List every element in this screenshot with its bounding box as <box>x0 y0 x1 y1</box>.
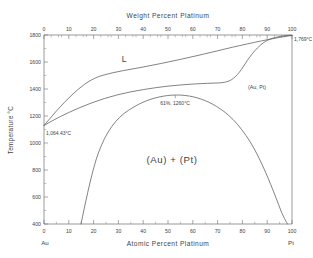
bottom-tick-label: 70 <box>215 228 221 234</box>
pt-melting-point-label: 1,769°C <box>294 36 313 42</box>
bottom-tick-label: 90 <box>264 228 270 234</box>
left-tick-label: 800 <box>32 167 41 173</box>
bottom-tick-label: 60 <box>190 228 196 234</box>
bottom-tick-label: 0 <box>43 228 46 234</box>
phase-diagram-figure: 0 10 20 30 40 50 60 70 80 90 100 Weight … <box>0 0 313 258</box>
top-tick-label: 90 <box>264 26 270 32</box>
top-tick-label: 40 <box>140 26 146 32</box>
top-tick-label: 50 <box>165 26 171 32</box>
left-tick-label: 1800 <box>29 32 41 38</box>
liquid-phase-label: L <box>122 54 127 64</box>
left-axis-title: Temperature °C <box>7 106 15 155</box>
bottom-tick-label: 20 <box>91 228 97 234</box>
bottom-tick-label: 30 <box>116 228 122 234</box>
top-tick-label: 60 <box>190 26 196 32</box>
critical-point-label: 61%, 1260°C <box>160 100 190 106</box>
top-tick-label: 80 <box>240 26 246 32</box>
figure-background <box>0 0 313 258</box>
solid-solution-label: (Au, Pt) <box>248 84 266 90</box>
bottom-tick-label: 50 <box>165 228 171 234</box>
top-tick-label: 10 <box>66 26 72 32</box>
left-element-label: Au <box>41 239 49 246</box>
two-phase-region-label: (Au) + (Pt) <box>146 154 197 165</box>
bottom-tick-label: 100 <box>288 228 297 234</box>
top-tick-label: 100 <box>288 26 297 32</box>
top-tick-label: 70 <box>215 26 221 32</box>
top-tick-label: 20 <box>91 26 97 32</box>
phase-diagram-svg: 0 10 20 30 40 50 60 70 80 90 100 Weight … <box>0 0 313 258</box>
bottom-axis-title: Atomic Percent Platinum <box>127 240 210 247</box>
left-tick-label: 1400 <box>29 86 41 92</box>
bottom-tick-label: 40 <box>140 228 146 234</box>
top-tick-label: 0 <box>43 26 46 32</box>
au-melting-point-label: 1,064.43°C <box>46 130 71 136</box>
top-tick-label: 30 <box>116 26 122 32</box>
left-tick-label: 1200 <box>29 113 41 119</box>
bottom-tick-label: 80 <box>240 228 246 234</box>
right-element-label: Pt <box>288 239 294 246</box>
left-tick-label: 1000 <box>29 140 41 146</box>
top-axis-title: Weight Percent Platinum <box>127 12 210 20</box>
left-tick-label: 600 <box>32 194 41 200</box>
left-tick-label: 400 <box>32 221 41 227</box>
bottom-tick-label: 10 <box>66 228 72 234</box>
left-tick-label: 1600 <box>29 59 41 65</box>
